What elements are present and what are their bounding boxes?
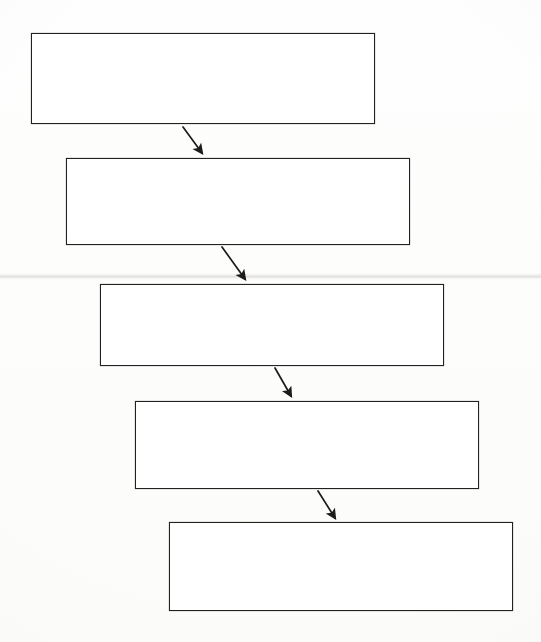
connector-arrow-2: [222, 247, 245, 279]
flow-node-1[interactable]: [31, 33, 375, 124]
flow-node-4-label: [136, 402, 478, 488]
connector-arrow-1: [183, 127, 202, 153]
flow-node-4[interactable]: [135, 401, 479, 489]
flow-node-2-label: [67, 159, 409, 244]
flow-node-3-label: [101, 285, 443, 365]
scanner-seam-line: [0, 273, 541, 280]
flow-node-5-label: [170, 523, 512, 610]
flow-node-3[interactable]: [100, 284, 444, 366]
flow-node-1-label: [32, 34, 374, 123]
connector-arrow-4: [318, 491, 335, 518]
flow-node-5[interactable]: [169, 522, 513, 611]
connector-arrow-3: [275, 368, 291, 396]
diagram-canvas: [0, 0, 541, 642]
flow-node-2[interactable]: [66, 158, 410, 245]
